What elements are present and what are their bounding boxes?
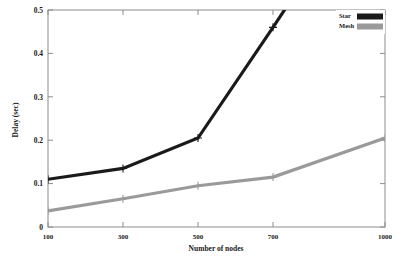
plot-frame bbox=[48, 10, 385, 227]
x-tick-label-500: 500 bbox=[193, 233, 204, 241]
y-axis-title: Delay (sec) bbox=[11, 102, 20, 137]
series-line-mesh bbox=[48, 138, 385, 211]
y-tick-label-0.3: 0.3 bbox=[34, 93, 44, 102]
series-line-star bbox=[48, 0, 385, 179]
y-axis-ticks bbox=[48, 10, 385, 227]
data-point-marker bbox=[44, 207, 52, 215]
y-tick-label-0: 0 bbox=[39, 223, 43, 232]
x-axis-title: Number of nodes bbox=[189, 244, 244, 253]
data-point-marker bbox=[194, 182, 202, 190]
legend-label-mesh: Mesh bbox=[339, 22, 355, 29]
series-markers-star bbox=[44, 23, 277, 183]
y-tick-label-0.5: 0.5 bbox=[34, 6, 44, 15]
legend: Star Mesh bbox=[336, 10, 385, 34]
x-tick-label-700: 700 bbox=[268, 233, 279, 241]
legend-label-star: Star bbox=[339, 12, 351, 19]
legend-swatch-star bbox=[357, 14, 383, 20]
x-tick-label-1000: 1000 bbox=[378, 233, 393, 241]
chart-container: 0.5 0.4 0.3 0.2 0.1 0 100 300 500 700 10… bbox=[0, 0, 413, 262]
data-point-marker bbox=[44, 175, 52, 183]
x-tick-label-300: 300 bbox=[118, 233, 129, 241]
legend-swatch-mesh bbox=[357, 24, 383, 30]
y-tick-label-0.1: 0.1 bbox=[34, 179, 44, 188]
data-point-marker bbox=[119, 195, 127, 203]
y-tick-label-0.4: 0.4 bbox=[34, 49, 44, 58]
y-tick-label-0.2: 0.2 bbox=[34, 136, 44, 145]
data-point-marker bbox=[381, 134, 389, 142]
x-tick-label-100: 100 bbox=[43, 233, 54, 241]
line-chart: 0.5 0.4 0.3 0.2 0.1 0 100 300 500 700 10… bbox=[0, 0, 413, 262]
x-axis-ticks bbox=[48, 10, 385, 227]
data-point-marker bbox=[269, 173, 277, 181]
